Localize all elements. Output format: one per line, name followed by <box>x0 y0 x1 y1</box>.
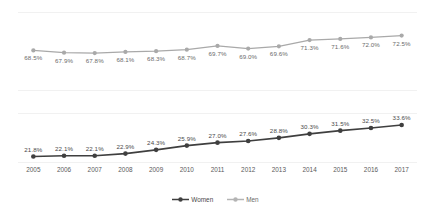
x-axis-tick-label: 2008 <box>118 166 132 173</box>
data-label: 68.7% <box>178 54 196 61</box>
data-label: 68.1% <box>116 56 134 63</box>
data-label: 22.1% <box>55 145 73 152</box>
legend-swatch-icon <box>227 196 244 203</box>
x-axis-tick-label: 2005 <box>26 166 40 173</box>
data-label: 22.1% <box>86 145 104 152</box>
data-label: 69.0% <box>239 53 257 60</box>
data-label: 68.5% <box>24 54 42 61</box>
data-label: 27.6% <box>239 130 257 137</box>
chart-legend: WomenMen <box>0 196 431 203</box>
legend-swatch-icon <box>172 196 189 203</box>
data-label: 33.6% <box>393 114 411 121</box>
data-label: 67.9% <box>55 57 73 64</box>
chart-panel-women: 21.8%22.1%22.1%22.9%24.3%25.9%27.0%27.6%… <box>0 100 431 206</box>
data-label: 67.8% <box>86 57 104 64</box>
data-label: 32.5% <box>362 117 380 124</box>
x-axis-tick-label: 2013 <box>272 166 286 173</box>
data-label: 27.0% <box>208 132 226 139</box>
data-label: 72.5% <box>393 40 411 47</box>
legend-item-women[interactable]: Women <box>172 196 213 203</box>
x-axis-tick-label: 2012 <box>241 166 255 173</box>
data-label: 28.8% <box>270 127 288 134</box>
x-axis-tick-label: 2017 <box>395 166 409 173</box>
x-axis-tick-label: 2007 <box>88 166 102 173</box>
x-axis-tick-label: 2011 <box>211 166 225 173</box>
data-label: 69.6% <box>270 50 288 57</box>
data-label: 22.9% <box>116 143 134 150</box>
plot-area-women: 21.8%22.1%22.1%22.9%24.3%25.9%27.0%27.6%… <box>18 100 417 206</box>
data-label: 24.3% <box>147 139 165 146</box>
data-label: 69.7% <box>208 50 226 57</box>
data-label: 71.3% <box>301 44 319 51</box>
legend-label: Women <box>191 196 213 203</box>
series-line-women <box>18 100 417 206</box>
x-axis-tick-label: 2009 <box>149 166 163 173</box>
x-axis-tick-label: 2006 <box>57 166 71 173</box>
x-axis-tick-label: 2016 <box>364 166 378 173</box>
data-label: 25.9% <box>178 135 196 142</box>
x-axis-tick-label: 2014 <box>302 166 316 173</box>
data-label: 31.5% <box>331 120 349 127</box>
x-axis-tick-label: 2015 <box>333 166 347 173</box>
legend-label: Men <box>246 196 258 203</box>
data-label: 72.0% <box>362 41 380 48</box>
data-label: 21.8% <box>24 146 42 153</box>
x-axis-tick-label: 2010 <box>180 166 194 173</box>
plot-area-men: 68.5%67.9%67.8%68.1%68.3%68.7%69.7%69.0%… <box>18 0 417 100</box>
chart-panel-men: 68.5%67.9%67.8%68.1%68.3%68.7%69.7%69.0%… <box>0 0 431 100</box>
data-label: 68.3% <box>147 55 165 62</box>
data-label: 30.3% <box>301 123 319 130</box>
legend-item-men[interactable]: Men <box>227 196 258 203</box>
chart-root: 68.5%67.9%67.8%68.1%68.3%68.7%69.7%69.0%… <box>0 0 431 206</box>
data-label: 71.6% <box>331 43 349 50</box>
